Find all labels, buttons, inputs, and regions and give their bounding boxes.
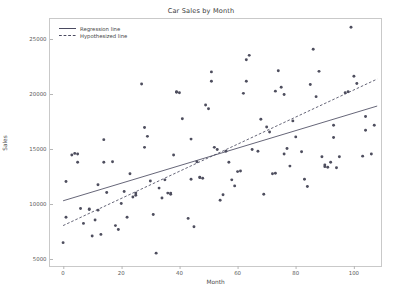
data-point <box>262 193 265 196</box>
data-point <box>126 216 129 219</box>
legend-item[interactable]: Regression line <box>59 25 127 32</box>
data-point <box>181 117 184 120</box>
data-point <box>332 136 335 139</box>
data-point <box>323 164 326 167</box>
data-point <box>256 150 259 153</box>
chart-legend: Regression lineHypothesized line <box>56 23 130 41</box>
data-point <box>219 199 222 202</box>
x-tick-label: 80 <box>292 266 299 276</box>
data-point <box>210 70 213 73</box>
data-point <box>70 154 73 157</box>
data-point <box>245 80 248 83</box>
data-point <box>163 178 166 181</box>
y-tick-label: 25000 <box>29 36 50 42</box>
legend-item[interactable]: Hypothesized line <box>59 32 127 39</box>
data-point <box>99 233 102 236</box>
data-point <box>277 69 280 72</box>
regression-line <box>63 106 377 201</box>
data-point <box>94 219 97 222</box>
x-tick-label: 0 <box>61 266 64 276</box>
data-point <box>230 178 233 181</box>
data-point <box>329 161 332 164</box>
data-point <box>123 190 126 193</box>
legend-solid-line-icon <box>59 28 76 29</box>
data-point <box>204 103 207 106</box>
x-axis-label: Month <box>49 279 382 285</box>
data-point <box>134 192 137 195</box>
data-point <box>166 192 169 195</box>
data-point <box>65 216 68 219</box>
data-point <box>338 155 341 158</box>
data-point <box>280 86 283 89</box>
data-point <box>265 126 268 129</box>
data-point <box>143 126 146 129</box>
y-tick-label: 15000 <box>29 146 50 152</box>
data-point <box>227 161 230 164</box>
data-point <box>352 75 355 78</box>
data-point <box>82 222 85 225</box>
data-point <box>274 90 277 93</box>
data-point <box>158 187 161 190</box>
data-point <box>248 54 251 57</box>
data-point <box>161 197 164 200</box>
data-point <box>370 153 373 156</box>
data-point <box>88 208 91 211</box>
data-point <box>315 95 318 98</box>
x-tick-label: 100 <box>349 266 359 276</box>
data-point <box>76 153 79 156</box>
data-point <box>373 124 376 127</box>
data-point <box>320 155 323 158</box>
data-point <box>318 70 321 73</box>
data-point <box>286 147 289 150</box>
data-point <box>187 217 190 220</box>
data-point <box>233 184 236 187</box>
data-point <box>149 180 152 183</box>
data-point <box>143 146 146 149</box>
data-point <box>146 135 149 138</box>
chart-figure: Car Sales by Month 500010000150002000025… <box>0 0 402 303</box>
data-point <box>245 58 248 61</box>
data-point <box>152 213 155 216</box>
data-point <box>178 91 181 94</box>
data-point <box>239 170 242 173</box>
x-tick-label: 20 <box>118 266 125 276</box>
data-point <box>283 93 286 96</box>
legend-label: Regression line <box>80 26 120 32</box>
data-point <box>306 185 309 188</box>
data-point <box>364 129 367 132</box>
data-point <box>97 183 100 186</box>
y-tick-label: 20000 <box>29 91 50 97</box>
data-point <box>300 150 303 153</box>
data-point <box>102 138 105 141</box>
data-point <box>350 26 353 29</box>
data-point <box>76 161 79 164</box>
scatter-series <box>62 26 376 255</box>
data-point <box>213 146 216 149</box>
data-point <box>193 225 196 228</box>
data-point <box>294 135 297 138</box>
data-point <box>251 148 254 151</box>
data-point <box>274 172 277 175</box>
data-point <box>242 92 245 95</box>
y-tick-label: 5000 <box>33 256 50 262</box>
data-point <box>236 170 239 173</box>
data-point <box>201 177 204 180</box>
data-point <box>259 118 262 121</box>
data-point <box>210 80 213 83</box>
legend-label: Hypothesized line <box>80 33 127 39</box>
chart-title: Car Sales by Month <box>0 7 402 15</box>
data-point <box>102 161 105 164</box>
data-point <box>155 252 158 255</box>
data-point <box>190 178 193 181</box>
data-point <box>73 152 76 155</box>
data-point <box>190 138 193 141</box>
legend-dashed-line-icon <box>59 35 76 36</box>
data-point <box>117 228 120 231</box>
data-point <box>175 91 178 94</box>
data-point <box>309 83 312 86</box>
y-tick-label: 10000 <box>29 201 50 207</box>
hypothesized-line <box>63 79 377 226</box>
data-point <box>207 107 210 110</box>
data-point <box>198 176 201 179</box>
data-point <box>91 235 94 238</box>
